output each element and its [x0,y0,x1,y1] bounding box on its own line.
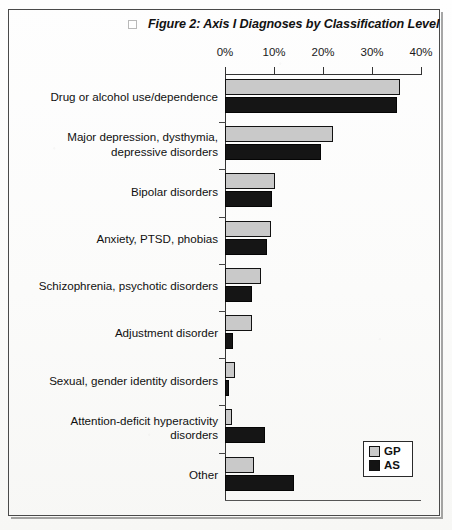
x-axis-tick-label: 40% [409,46,432,58]
category-label: Other [8,468,218,483]
bar-group [225,311,421,358]
category-label-line: disorders [8,428,218,443]
figure-title-row: Figure 2: Axis I Diagnoses by Classifica… [128,17,439,31]
bar-as [225,191,272,207]
category-label-line: Attention-deficit hyperactivity [8,414,218,429]
legend-label-as: AS [384,460,400,471]
plot-area [225,75,421,500]
bar-group [225,358,421,405]
category-label-line: Anxiety, PTSD, phobias [8,232,218,247]
x-axis-tick-label: 10% [262,46,285,58]
bar-as [225,144,321,160]
bar-as [225,239,267,255]
x-axis-tick-label: 0% [217,46,234,58]
category-label: Adjustment disorder [8,326,218,341]
category-label: Bipolar disorders [8,185,218,200]
category-label-line: Schizophrenia, psychotic disorders [8,279,218,294]
bar-as [225,475,294,491]
category-label: Major depression, dysthymia,depressive d… [8,130,218,159]
legend-swatch-gp [369,446,380,457]
bar-gp [225,221,271,237]
checkbox-icon[interactable] [128,20,137,29]
bar-group [225,264,421,311]
category-label: Drug or alcohol use/dependence [8,90,218,105]
legend-label-gp: GP [384,446,401,457]
bar-as [225,380,229,396]
bar-gp [225,315,252,331]
category-label: Sexual, gender identity disorders [8,374,218,389]
x-axis-tick-label: 20% [311,46,334,58]
legend-item-gp: GP [369,446,407,457]
bar-group [225,122,421,169]
bar-gp [225,79,400,95]
category-label-line: Sexual, gender identity disorders [8,374,218,389]
legend-swatch-as [369,460,380,471]
category-label-line: Major depression, dysthymia, [8,130,218,145]
bar-as [225,427,265,443]
bar-gp [225,126,333,142]
bar-gp [225,362,235,378]
bar-gp [225,173,275,189]
bar-group [225,169,421,216]
x-axis-tick-mark [421,67,422,75]
category-label-line: Adjustment disorder [8,326,218,341]
bar-gp [225,268,261,284]
category-label: Anxiety, PTSD, phobias [8,232,218,247]
figure-container: Figure 2: Axis I Diagnoses by Classifica… [0,0,452,530]
category-label: Attention-deficit hyperactivitydisorders [8,414,218,443]
category-label: Schizophrenia, psychotic disorders [8,279,218,294]
category-label-line: Bipolar disorders [8,185,218,200]
bar-group [225,75,421,122]
bar-as [225,286,252,302]
chart-legend: GP AS [363,441,413,477]
bar-gp [225,457,254,473]
page-title: Figure 2: Axis I Diagnoses by Classifica… [148,17,439,31]
bar-as [225,333,233,349]
category-label-line: depressive disorders [8,145,218,160]
bar-group [225,217,421,264]
category-label-line: Other [8,468,218,483]
legend-item-as: AS [369,460,407,471]
bar-as [225,97,397,113]
x-axis-tick-label: 30% [360,46,383,58]
plot-bottom-rule [225,500,421,501]
bar-gp [225,409,232,425]
category-label-line: Drug or alcohol use/dependence [8,90,218,105]
